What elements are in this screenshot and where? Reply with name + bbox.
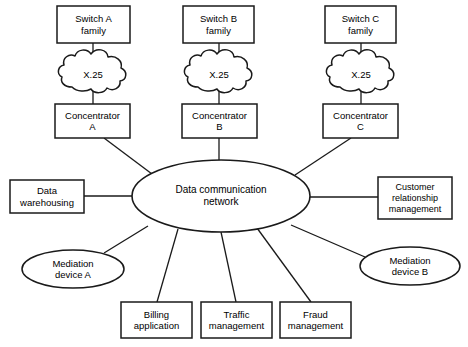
link-network-mediation-device-a (104, 226, 148, 253)
node-fraud-management-box[interactable] (280, 302, 351, 338)
node-concentrator-c-box[interactable] (323, 104, 398, 138)
link-network-fraud-management (257, 228, 311, 302)
node-mediation-device-a-ellipse[interactable] (22, 250, 124, 288)
node-traffic-management-box[interactable] (201, 302, 272, 338)
node-cloud-a-shape[interactable] (58, 50, 125, 93)
network-diagram: Switch A family X.25 Concentrator A Swit… (0, 0, 468, 347)
link-network-billing-application (157, 229, 178, 302)
node-mediation-device-b-ellipse[interactable] (360, 247, 460, 285)
node-cloud-b-shape[interactable] (184, 50, 251, 93)
node-customer-relationship-management-box[interactable] (378, 177, 452, 219)
node-switch-a-box[interactable] (57, 6, 130, 43)
node-network-ellipse[interactable] (132, 160, 310, 232)
node-switch-c-box[interactable] (325, 6, 396, 43)
node-data-warehousing-box[interactable] (10, 180, 84, 213)
link-network-traffic-management (221, 232, 236, 302)
link-concentrator-c-network (295, 138, 351, 175)
node-cloud-c-shape[interactable] (326, 50, 393, 93)
node-billing-application-box[interactable] (121, 302, 192, 338)
link-concentrator-a-network (104, 138, 152, 174)
diagram-canvas (0, 0, 468, 347)
link-network-mediation-device-b (291, 225, 365, 257)
node-concentrator-b-box[interactable] (182, 104, 257, 138)
node-concentrator-a-box[interactable] (55, 104, 130, 138)
node-switch-b-box[interactable] (183, 6, 254, 43)
